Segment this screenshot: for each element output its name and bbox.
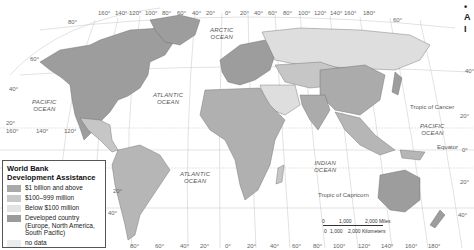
lon-label: 140° [330, 10, 342, 16]
lon-label: 120° [129, 10, 141, 16]
lat-label: 80° [68, 19, 77, 25]
europe [220, 40, 275, 85]
lon-label: 140° [381, 243, 393, 249]
lat-label: 20° [6, 120, 15, 126]
legend-swatch [7, 205, 21, 212]
lon-label: 120° [64, 128, 76, 134]
legend-item: $100–999 million [7, 194, 101, 202]
lat-label: 40° [458, 212, 467, 218]
scale-km-2000: 2,000 Kilometers [348, 228, 386, 234]
lon-label: 160° [6, 128, 18, 134]
scale-km-1000: 1,000 [330, 228, 343, 234]
legend-item: $1 billion and above [7, 184, 101, 192]
legend-swatch [7, 240, 21, 247]
legend-label: Developed country (Europe, North America… [25, 214, 101, 237]
legend-label: $100–999 million [25, 194, 74, 202]
lon-label: 100° [298, 10, 310, 16]
legend-label: $1 billion and above [25, 184, 83, 192]
lon-label: 180° [428, 243, 440, 249]
lon-label: 40° [180, 243, 189, 249]
legend-title-line2: Development Assistance [7, 173, 101, 182]
lon-label: 140° [36, 128, 48, 134]
lon-label: 20° [247, 243, 256, 249]
lat-label: 60° [30, 56, 39, 62]
lat-label: 40° [465, 68, 474, 74]
pacific-ocean-east-label: PACIFIC OCEAN [420, 123, 445, 137]
tropic-of-cancer-label: Tropic of Cancer [410, 104, 454, 110]
lat-label: 60° [393, 17, 402, 23]
legend-item: no data [7, 239, 101, 247]
lon-label: 100° [333, 243, 345, 249]
legend-swatch [7, 185, 21, 192]
lon-label: 100° [145, 10, 157, 16]
lon-label: 60° [268, 10, 277, 16]
australia [378, 170, 420, 212]
scale-miles-0: 0 [322, 218, 325, 224]
lon-label: 160° [344, 10, 356, 16]
title-fragment: A [464, 12, 471, 22]
japan [392, 72, 402, 95]
lat-label: 20° [460, 113, 469, 119]
lon-label: 180° [363, 10, 375, 16]
scale-bar: 0 1,000 2,000 Miles 0 1,000 2,000 Kilome… [322, 218, 412, 240]
lon-label: 40° [254, 10, 263, 16]
lon-label: 40° [192, 10, 201, 16]
china [320, 65, 385, 115]
map-legend: World Bank Development Assistance $1 bil… [2, 160, 106, 248]
scale-km-0: 0 [324, 228, 327, 234]
indian-ocean-label: INDIAN OCEAN [314, 160, 336, 174]
lat-label: 40° [9, 86, 18, 92]
scale-line [323, 225, 383, 226]
lon-label: 20° [240, 10, 249, 16]
papua [400, 150, 425, 160]
atlantic-ocean-north-label: ATLANTIC OCEAN [153, 92, 183, 106]
legend-item: Below $100 million [7, 204, 101, 212]
title-fragment: I [464, 24, 467, 34]
pacific-ocean-west-label: PACIFIC OCEAN [32, 99, 57, 113]
lat-label: 20° [460, 179, 469, 185]
legend-swatch [7, 195, 21, 202]
lon-label: 120° [314, 10, 326, 16]
arctic-ocean-label: ARCTIC OCEAN [210, 27, 234, 41]
legend-item: Developed country (Europe, North America… [7, 214, 101, 237]
lat-label: 40° [108, 210, 117, 216]
lon-label: 160° [405, 243, 417, 249]
lon-label: 140° [115, 10, 127, 16]
scale-miles-1000: 1,000 [339, 218, 352, 224]
new-zealand [430, 210, 445, 228]
scale-miles-2000: 2,000 Miles [365, 218, 391, 224]
southeast-asia [335, 112, 395, 155]
lon-label: 20° [200, 243, 209, 249]
legend-label: no data [25, 239, 47, 247]
india [300, 95, 330, 130]
lon-label: 160° [98, 10, 110, 16]
north-america [40, 28, 175, 140]
lon-label: 60° [177, 10, 186, 16]
lon-label: 80° [130, 243, 139, 249]
lon-label: 80° [162, 10, 171, 16]
lon-label: 20° [206, 10, 215, 16]
lat-label: 20° [113, 188, 122, 194]
lon-label: 80° [313, 243, 322, 249]
russia [262, 28, 430, 70]
legend-title-line1: World Bank [7, 164, 101, 173]
lon-label: 0° [225, 243, 231, 249]
lon-label: 60° [292, 243, 301, 249]
lon-label: 0° [225, 10, 231, 16]
lon-label: 60° [155, 243, 164, 249]
lon-label: 120° [358, 243, 370, 249]
legend-swatch [7, 215, 21, 222]
title-fragment: • [464, 2, 467, 12]
tropic-of-capricorn-label: Tropic of Capricorn [318, 192, 369, 198]
legend-label: Below $100 million [25, 204, 79, 212]
lon-label: 80° [283, 10, 292, 16]
atlantic-ocean-south-label: ATLANTIC OCEAN [180, 171, 210, 185]
lat-label: 0° [462, 147, 468, 153]
equator-label: Equator [437, 144, 458, 150]
lon-label: 40° [270, 243, 279, 249]
